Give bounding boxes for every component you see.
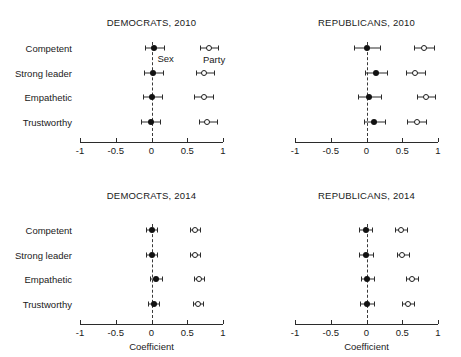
data-point-sex: [364, 301, 370, 307]
coefficient-plot-figure: DEMOCRATS, 2010CompetentStrong leaderEmp…: [0, 0, 461, 357]
ci-cap-left: [402, 301, 403, 306]
x-axis-tick-label: 0: [364, 327, 369, 338]
x-axis-tick-label: 1: [435, 327, 440, 338]
data-point-party: [409, 276, 415, 282]
ci-cap-left: [359, 252, 360, 257]
ci-cap-right: [418, 277, 419, 282]
ci-cap-left: [395, 228, 396, 233]
ci-cap-left: [359, 228, 360, 233]
data-point-sex: [363, 227, 369, 233]
ci-cap-right: [414, 301, 415, 306]
x-axis-line: [295, 324, 438, 325]
x-axis-tick-label: -1: [291, 327, 299, 338]
ci-cap-left: [361, 277, 362, 282]
x-axis-tick: [331, 320, 332, 324]
panel-4: REPUBLICANS, 2014-1-0.500.51Coefficient: [0, 0, 461, 357]
data-point-sex: [364, 276, 370, 282]
data-point-sex: [363, 252, 369, 258]
ci-cap-left: [397, 252, 398, 257]
x-axis-tick: [367, 320, 368, 324]
x-axis-tick-label: -0.5: [323, 327, 339, 338]
ci-cap-right: [372, 228, 373, 233]
ci-cap-right: [407, 228, 408, 233]
x-axis-tick: [402, 320, 403, 324]
data-point-party: [398, 227, 404, 233]
data-point-party: [405, 301, 411, 307]
x-axis-tick: [438, 320, 439, 324]
ci-cap-right: [373, 252, 374, 257]
x-axis-title: Coefficient: [295, 341, 438, 352]
panel-title: REPUBLICANS, 2014: [233, 190, 461, 201]
ci-cap-right: [374, 277, 375, 282]
data-point-party: [399, 252, 405, 258]
x-axis-tick: [295, 320, 296, 324]
ci-cap-left: [406, 277, 407, 282]
ci-cap-left: [360, 301, 361, 306]
ci-cap-right: [374, 301, 375, 306]
ci-cap-right: [409, 252, 410, 257]
x-axis-tick-label: 0.5: [396, 327, 409, 338]
